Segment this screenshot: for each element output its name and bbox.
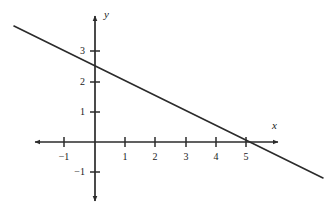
y-tick-label: −1	[74, 167, 85, 177]
y-tick-label: 3	[80, 46, 85, 56]
y-tick-label: 2	[80, 77, 85, 87]
y-tick-label: 1	[80, 107, 85, 117]
plot-canvas	[0, 0, 335, 213]
x-tick-label: 3	[184, 152, 189, 162]
coordinate-plane-figure: y x −1 1 2 3 4 5 3 2 1 −1	[0, 0, 335, 213]
x-tick-label: 1	[123, 152, 128, 162]
x-tick-label: 2	[153, 152, 158, 162]
y-axis-label: y	[104, 9, 109, 20]
x-axis-label: x	[272, 120, 277, 131]
x-tick-label: −1	[59, 152, 70, 162]
x-tick-label: 5	[244, 152, 249, 162]
x-tick-label: 4	[214, 152, 219, 162]
